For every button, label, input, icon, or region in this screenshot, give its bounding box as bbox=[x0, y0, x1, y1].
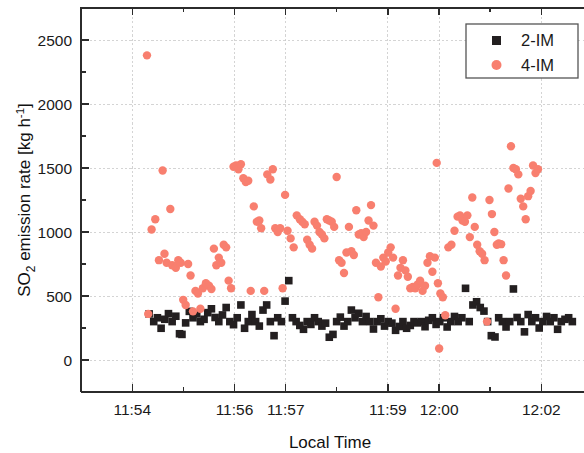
data-point-4-im bbox=[507, 142, 515, 150]
legend-marker-2im bbox=[492, 36, 501, 45]
data-point-4-im bbox=[260, 287, 268, 295]
y-tick-label: 500 bbox=[46, 288, 72, 305]
data-point-2-im bbox=[458, 314, 466, 322]
data-point-4-im bbox=[181, 301, 189, 309]
data-point-4-im bbox=[367, 201, 375, 209]
data-point-4-im bbox=[521, 215, 529, 223]
y-axis-title-mid: emission rate [kg h bbox=[15, 118, 34, 265]
data-point-2-im bbox=[165, 310, 173, 318]
x-tick-label: 12:00 bbox=[420, 401, 459, 418]
data-point-2-im bbox=[355, 309, 363, 317]
data-point-4-im bbox=[519, 202, 527, 210]
data-point-2-im bbox=[480, 307, 488, 315]
x-tick-label: 11:56 bbox=[216, 401, 254, 418]
data-point-2-im bbox=[219, 311, 227, 319]
data-point-4-im bbox=[514, 170, 522, 178]
data-point-2-im bbox=[157, 324, 165, 332]
data-point-4-im bbox=[166, 205, 174, 213]
data-point-4-im bbox=[504, 184, 512, 192]
chart-canvas: 05001000150020002500 11:5411:5611:5711:5… bbox=[0, 0, 584, 453]
data-point-4-im bbox=[483, 317, 491, 325]
data-point-2-im bbox=[172, 312, 180, 320]
legend-label-2im: 2-IM bbox=[521, 31, 554, 49]
data-point-2-im bbox=[270, 332, 278, 340]
data-point-4-im bbox=[386, 243, 394, 251]
data-point-4-im bbox=[151, 215, 159, 223]
data-point-2-im bbox=[524, 311, 532, 319]
data-point-2-im bbox=[230, 321, 238, 329]
so2-emission-scatter-chart: 05001000150020002500 11:5411:5611:5711:5… bbox=[0, 0, 584, 453]
data-point-4-im bbox=[404, 273, 412, 281]
legend-marker-4im bbox=[492, 60, 502, 70]
x-tick-label: 12:02 bbox=[522, 401, 561, 418]
data-point-4-im bbox=[196, 305, 204, 313]
data-point-4-im bbox=[147, 225, 155, 233]
x-tick-label: 11:59 bbox=[369, 401, 407, 418]
data-point-4-im bbox=[450, 227, 458, 235]
data-point-4-im bbox=[435, 344, 443, 352]
data-point-2-im bbox=[237, 301, 245, 309]
data-point-4-im bbox=[502, 271, 510, 279]
data-point-4-im bbox=[471, 223, 479, 231]
data-point-2-im bbox=[337, 313, 345, 321]
data-point-4-im bbox=[468, 193, 476, 201]
data-point-2-im bbox=[281, 297, 289, 305]
data-point-2-im bbox=[569, 318, 577, 326]
data-point-4-im bbox=[286, 234, 294, 242]
data-point-4-im bbox=[301, 220, 309, 228]
data-point-4-im bbox=[330, 223, 338, 231]
data-point-2-im bbox=[521, 328, 529, 336]
data-point-4-im bbox=[210, 244, 218, 252]
y-axis-title-post: ] bbox=[15, 103, 34, 108]
data-point-4-im bbox=[394, 271, 402, 279]
data-point-4-im bbox=[247, 287, 255, 295]
data-point-4-im bbox=[269, 165, 277, 173]
y-tick-label: 1000 bbox=[38, 224, 73, 241]
data-point-4-im bbox=[485, 196, 493, 204]
data-point-4-im bbox=[497, 240, 505, 248]
data-point-2-im bbox=[263, 301, 271, 309]
data-point-4-im bbox=[526, 187, 534, 195]
data-point-2-im bbox=[377, 315, 385, 323]
data-point-2-im bbox=[532, 314, 540, 322]
data-point-4-im bbox=[447, 241, 455, 249]
data-point-4-im bbox=[227, 284, 235, 292]
data-point-4-im bbox=[382, 257, 390, 265]
data-point-2-im bbox=[344, 318, 352, 326]
data-point-4-im bbox=[158, 166, 166, 174]
data-point-2-im bbox=[399, 318, 407, 326]
data-point-4-im bbox=[222, 243, 230, 251]
data-point-2-im bbox=[244, 318, 252, 326]
data-point-4-im bbox=[534, 165, 542, 173]
data-point-4-im bbox=[517, 195, 525, 203]
data-point-4-im bbox=[207, 285, 215, 293]
data-point-4-im bbox=[399, 256, 407, 264]
data-point-4-im bbox=[369, 221, 377, 229]
data-point-4-im bbox=[352, 206, 360, 214]
data-point-4-im bbox=[143, 51, 151, 59]
data-point-2-im bbox=[307, 321, 315, 329]
data-point-4-im bbox=[184, 260, 192, 268]
data-point-4-im bbox=[332, 173, 340, 181]
data-point-4-im bbox=[434, 279, 442, 287]
data-point-4-im bbox=[266, 175, 274, 183]
data-point-4-im bbox=[350, 251, 358, 259]
data-point-4-im bbox=[255, 216, 263, 224]
data-point-2-im bbox=[182, 319, 190, 327]
chart-legend: 2-IM 4-IM bbox=[466, 24, 578, 78]
data-point-4-im bbox=[320, 234, 328, 242]
data-point-2-im bbox=[200, 316, 208, 324]
data-point-4-im bbox=[281, 191, 289, 199]
data-point-4-im bbox=[250, 202, 258, 210]
data-point-4-im bbox=[144, 310, 152, 318]
data-point-4-im bbox=[160, 250, 168, 258]
data-point-4-im bbox=[257, 224, 265, 232]
y-axis-title-pre: SO bbox=[15, 272, 34, 297]
data-point-2-im bbox=[178, 331, 186, 339]
data-point-2-im bbox=[366, 318, 374, 326]
data-point-2-im bbox=[278, 318, 286, 326]
data-point-4-im bbox=[224, 276, 232, 284]
y-tick-label: 2000 bbox=[38, 96, 73, 113]
data-point-2-im bbox=[554, 325, 562, 333]
data-point-2-im bbox=[491, 333, 499, 341]
